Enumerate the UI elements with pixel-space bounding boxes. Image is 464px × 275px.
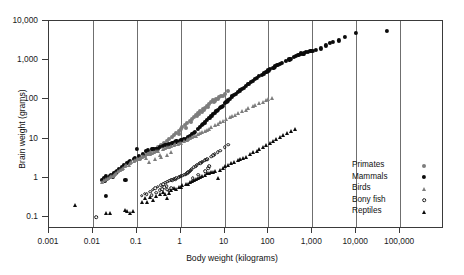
data-point-reptiles [194,177,198,181]
data-point-mammals [216,108,220,112]
data-point-mammals [240,87,244,91]
legend-marker-open-circle [422,199,426,203]
data-point-mammals [167,142,171,146]
data-point-bony-fish [171,178,175,182]
data-point-mammals [169,142,173,146]
data-point-reptiles [184,182,188,186]
data-point-birds [200,130,204,134]
data-point-primates [154,147,158,151]
data-point-reptiles [209,170,213,174]
data-point-bony-fish [184,172,188,176]
data-point-primates [200,110,204,114]
data-point-reptiles [165,196,169,200]
data-point-birds [236,111,240,115]
data-point-bony-fish [160,187,164,191]
data-point-bony-fish [175,176,179,180]
data-point-mammals [284,59,288,63]
x-tick-label: 100,000 [384,236,414,246]
data-point-reptiles [207,171,211,175]
y-tick-label: 10,000 [0,15,38,25]
data-point-mammals [112,171,116,175]
data-point-bony-fish [162,185,166,189]
data-point-reptiles [241,156,245,160]
data-point-mammals [109,173,113,177]
data-point-birds [192,134,196,138]
data-point-bony-fish [188,169,192,173]
data-point-birds [118,168,122,172]
data-point-reptiles [154,194,158,198]
data-point-reptiles [274,137,278,141]
data-point-mammals [163,143,167,147]
legend-label: Bony fish [352,195,386,204]
data-point-birds [100,180,104,184]
data-point-reptiles [186,182,190,186]
data-point-mammals [107,173,111,177]
data-point-reptiles [293,127,297,131]
x-tick-label: 0.01 [84,236,100,246]
data-point-bony-fish [150,194,154,198]
data-point-bony-fish [167,189,171,193]
data-point-mammals [237,88,241,92]
data-point-primates [201,107,205,111]
data-point-reptiles [236,158,240,162]
data-point-mammals [141,151,145,155]
data-point-primates [170,135,174,139]
data-point-mammals [260,73,264,77]
data-point-mammals [123,178,127,182]
data-point-reptiles [205,171,209,175]
data-point-reptiles [251,150,255,154]
data-point-mammals [186,135,190,139]
data-point-birds [205,128,209,132]
legend-label: Primates [352,160,384,169]
data-point-reptiles [172,186,176,190]
data-point-bony-fish [187,170,191,174]
data-point-bony-fish [158,189,162,193]
data-point-mammals [243,84,247,88]
data-point-bony-fish [208,164,212,168]
data-point-mammals [161,144,165,148]
data-point-primates [162,141,166,145]
legend-marker-filled-triangle [422,187,426,191]
data-point-bony-fish [164,181,168,185]
data-point-mammals [173,140,177,144]
data-point-reptiles [108,211,112,215]
data-point-reptiles [285,131,289,135]
data-point-primates [156,145,160,149]
data-point-mammals [278,62,282,66]
y-tick-mark [42,177,48,178]
data-point-birds [128,161,132,165]
data-point-birds [109,174,113,178]
data-point-primates [159,143,163,147]
data-point-bony-fish [156,185,160,189]
data-point-bony-fish [198,161,202,165]
data-point-mammals [198,125,202,129]
data-point-primates [151,148,155,152]
x-tick-mark [48,228,49,233]
data-point-mammals [230,94,234,98]
data-point-mammals [104,174,108,178]
data-point-bony-fish [191,176,195,180]
data-point-birds [163,146,167,150]
data-point-primates [219,94,223,98]
data-point-mammals [227,97,231,101]
data-point-primates [214,97,218,101]
data-point-reptiles [257,147,261,151]
x-tick-mark [311,228,312,233]
gridline-x-10 [225,21,226,227]
data-point-mammals [165,143,169,147]
data-point-primates [213,99,217,103]
x-tick-mark [267,228,268,233]
data-point-birds [186,137,190,141]
data-point-reptiles [151,198,155,202]
y-tick-mark [42,59,48,60]
data-point-mammals [303,50,307,54]
data-point-primates [174,131,178,135]
legend-label: Mammals [352,172,387,181]
data-point-primates [183,123,187,127]
data-point-reptiles [143,196,147,200]
y-tick-mark [42,20,48,21]
data-point-mammals [115,170,119,174]
data-point-birds [127,163,131,167]
legend-item-bony-fish: Bony fish [352,195,436,207]
data-point-mammals [280,61,284,65]
